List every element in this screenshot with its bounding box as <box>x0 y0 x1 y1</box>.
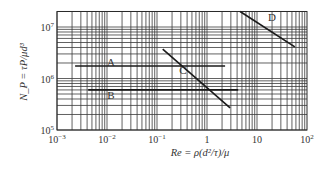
y-tick-label: 107 <box>41 21 55 33</box>
x-tick-label: 1 <box>205 134 210 145</box>
x-tick-label: 102 <box>300 133 314 145</box>
x-axis-label: Re = ρ(d²/τ)/μ <box>170 147 230 159</box>
y-axis-ticks: 105106107 <box>41 21 55 136</box>
series-label-a: A <box>107 56 115 68</box>
chart: ABCD 10−310−210−1110102 105106107 Re = ρ… <box>0 0 328 170</box>
x-tick-label: 10−1 <box>148 133 166 145</box>
x-axis-ticks: 10−310−210−1110102 <box>48 133 314 145</box>
series-label-b: B <box>107 89 114 101</box>
series-label-c: C <box>179 64 186 76</box>
x-tick-label: 10 <box>252 134 262 145</box>
series-label-d: D <box>268 11 276 23</box>
y-axis-label: N_P = τP/μd³ <box>18 42 29 101</box>
series-labels: ABCD <box>107 11 276 101</box>
x-tick-label: 10−2 <box>98 133 116 145</box>
x-tick-label: 10−3 <box>48 133 66 145</box>
y-tick-label: 106 <box>41 73 55 85</box>
